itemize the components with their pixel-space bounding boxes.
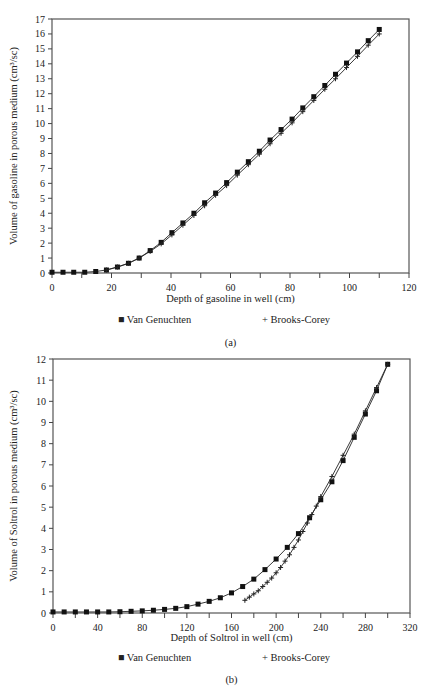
data-point-square — [62, 609, 67, 614]
series-line-van-genuchten — [52, 29, 379, 272]
y-tick-label: 9 — [41, 417, 46, 428]
data-point-square — [173, 606, 178, 611]
y-tick-label: 1 — [41, 586, 46, 597]
y-tick-label: 10 — [35, 118, 45, 129]
y-tick-label: 11 — [35, 103, 45, 114]
legend-van-genuchten: ■ Van Genuchten — [118, 314, 192, 325]
chart-panel-a: 0123456789101112131415161702040608010012… — [8, 14, 417, 350]
legend-brooks-corey: + Brooks-Corey — [262, 652, 331, 663]
y-tick-label: 17 — [35, 14, 45, 25]
data-point-square — [196, 602, 201, 607]
x-axis-label: Depth of gasoline in well (cm) — [166, 293, 295, 305]
data-point-square — [95, 609, 100, 614]
data-point-plus — [296, 537, 301, 542]
data-point-square — [50, 270, 55, 275]
y-tick-label: 6 — [41, 481, 46, 492]
y-tick-label: 4 — [41, 523, 46, 534]
x-tick-label: 0 — [51, 622, 56, 633]
x-tick-label: 40 — [166, 282, 176, 293]
data-point-square — [82, 270, 87, 275]
y-tick-label: 0 — [41, 608, 46, 619]
data-point-square — [129, 609, 134, 614]
plot-frame — [52, 19, 409, 273]
x-tick-label: 80 — [285, 282, 295, 293]
data-point-square — [355, 49, 360, 54]
data-point-square — [274, 557, 279, 562]
y-tick-label: 2 — [40, 238, 45, 249]
data-point-square — [229, 590, 234, 595]
x-tick-label: 280 — [358, 622, 373, 633]
y-tick-label: 2 — [41, 565, 46, 576]
y-axis-label: Volume of Soltrol in porous medium (cm³/… — [8, 390, 20, 582]
y-axis-label: Volume of gasoline in porous medium (cm³… — [8, 47, 20, 245]
data-point-square — [93, 269, 98, 274]
y-tick-label: 5 — [40, 193, 45, 204]
legend-van-genuchten: ■ Van Genuchten — [118, 652, 192, 663]
y-tick-label: 12 — [35, 88, 45, 99]
x-tick-label: 240 — [313, 622, 328, 633]
data-point-square — [251, 577, 256, 582]
data-point-square — [84, 609, 89, 614]
y-tick-label: 16 — [35, 28, 45, 39]
data-point-square — [366, 38, 371, 43]
data-point-plus — [305, 521, 310, 526]
data-point-square — [285, 545, 290, 550]
y-tick-label: 3 — [41, 544, 46, 555]
series-line-van-genuchten — [53, 364, 388, 612]
y-tick-label: 8 — [41, 438, 46, 449]
data-point-square — [162, 607, 167, 612]
y-tick-label: 1 — [40, 253, 45, 264]
data-point-square — [218, 595, 223, 600]
y-tick-label: 13 — [35, 73, 45, 84]
y-tick-label: 8 — [40, 148, 45, 159]
legend-brooks-corey: + Brooks-Corey — [262, 314, 331, 325]
y-tick-label: 0 — [40, 268, 45, 279]
y-tick-label: 4 — [40, 208, 45, 219]
y-tick-label: 10 — [36, 396, 46, 407]
data-point-square — [207, 599, 212, 604]
data-point-plus — [291, 545, 296, 550]
data-point-square — [140, 608, 145, 613]
series-line-brooks-corey — [106, 34, 379, 270]
x-tick-label: 100 — [342, 282, 357, 293]
x-tick-label: 40 — [93, 622, 103, 633]
chart-panel-b: 012345678910111204080120160200240280320D… — [8, 354, 418, 687]
data-point-square — [240, 584, 245, 589]
y-tick-label: 7 — [41, 459, 46, 470]
data-point-square — [51, 609, 56, 614]
y-tick-label: 15 — [35, 43, 45, 54]
data-point-square — [71, 270, 76, 275]
x-tick-label: 60 — [226, 282, 236, 293]
data-point-square — [296, 531, 301, 536]
panel-label: (b) — [225, 674, 238, 686]
data-point-square — [106, 609, 111, 614]
data-point-square — [61, 270, 66, 275]
x-tick-label: 120 — [402, 282, 417, 293]
data-point-square — [333, 72, 338, 77]
series-line-brooks-corey — [245, 364, 388, 600]
y-tick-label: 5 — [41, 502, 46, 513]
data-point-square — [262, 567, 267, 572]
plot-frame — [53, 359, 410, 613]
y-tick-label: 6 — [40, 178, 45, 189]
chart-canvas: 0123456789101112131415161702040608010012… — [0, 0, 429, 695]
y-tick-label: 11 — [36, 375, 46, 386]
data-point-square — [73, 609, 78, 614]
panel-label: (a) — [225, 337, 237, 349]
x-tick-label: 320 — [403, 622, 418, 633]
data-point-square — [184, 604, 189, 609]
y-tick-label: 12 — [36, 354, 46, 365]
x-axis-label: Depth of Soltrol in well (cm) — [170, 632, 293, 644]
x-tick-label: 80 — [137, 622, 147, 633]
data-point-square — [117, 609, 122, 614]
data-point-square — [344, 61, 349, 66]
y-tick-label: 3 — [40, 223, 45, 234]
data-point-square — [377, 27, 382, 32]
data-point-square — [151, 608, 156, 613]
y-tick-label: 14 — [35, 58, 45, 69]
y-tick-label: 9 — [40, 133, 45, 144]
x-tick-label: 0 — [50, 282, 55, 293]
x-tick-label: 20 — [107, 282, 117, 293]
figure: 0123456789101112131415161702040608010012… — [0, 0, 429, 695]
y-tick-label: 7 — [40, 163, 45, 174]
